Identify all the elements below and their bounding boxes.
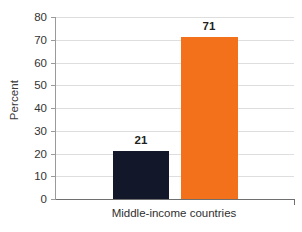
- gridline-70: [56, 40, 294, 41]
- y-tick-label-70: 70: [34, 34, 47, 46]
- y-tick-mark-10: [51, 176, 56, 177]
- gridline-80: [56, 17, 294, 18]
- y-tick-mark-60: [51, 63, 56, 64]
- plot-area: 80 70 60 50 40 30 20: [55, 17, 294, 200]
- y-axis-title-label: Percent: [8, 79, 20, 119]
- y-tick-label-20: 20: [34, 148, 47, 160]
- gridline-20: [56, 154, 294, 155]
- y-tick-mark-0: [51, 199, 56, 200]
- gridline-50: [56, 85, 294, 86]
- y-tick-mark-50: [51, 85, 56, 86]
- bar-orange-value-label: 71: [179, 20, 239, 32]
- gridline-60: [56, 63, 294, 64]
- bar-dark[interactable]: [113, 151, 169, 199]
- y-tick-label-10: 10: [34, 170, 47, 182]
- y-tick-label-30: 30: [34, 125, 47, 137]
- y-tick-label-50: 50: [34, 79, 47, 91]
- y-tick-label-0: 0: [41, 193, 47, 205]
- bar-dark-value-label: 21: [111, 134, 171, 146]
- bar-chart-figure: Percent 80 70 60 50 40: [0, 0, 302, 232]
- gridline-40: [56, 108, 294, 109]
- gridline-30: [56, 131, 294, 132]
- gridline-10: [56, 176, 294, 177]
- y-tick-label-40: 40: [34, 102, 47, 114]
- y-tick-mark-30: [51, 131, 56, 132]
- y-tick-label-60: 60: [34, 57, 47, 69]
- y-tick-mark-80: [51, 17, 56, 18]
- x-axis-label: Middle-income countries: [55, 207, 293, 219]
- x-axis-end-tick: [294, 199, 295, 205]
- y-tick-mark-20: [51, 154, 56, 155]
- y-tick-mark-70: [51, 40, 56, 41]
- bar-orange[interactable]: [181, 37, 238, 199]
- y-tick-mark-40: [51, 108, 56, 109]
- y-tick-label-80: 80: [34, 11, 47, 23]
- y-axis-title: Percent: [4, 0, 24, 199]
